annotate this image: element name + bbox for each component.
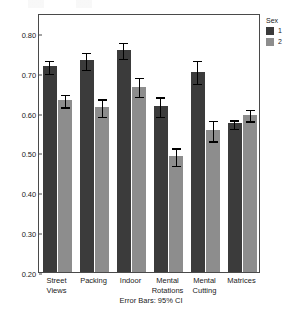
bar-group	[150, 15, 187, 272]
bar-slot	[169, 15, 183, 272]
error-bar-line	[65, 95, 66, 107]
x-axis-label-line: Cutting	[186, 286, 223, 296]
x-axis-label-line: Indoor	[112, 276, 149, 286]
x-axis-label: Matrices	[223, 276, 260, 286]
error-bar-cap-upper	[119, 43, 128, 44]
y-tick-label: 0.20	[22, 270, 39, 279]
bar-group	[187, 15, 224, 272]
x-axis-label-line: Street	[38, 276, 75, 286]
error-bar-cap-upper	[135, 78, 144, 79]
error-bar-line	[160, 98, 161, 118]
error-bar-line	[197, 62, 198, 85]
x-axis-label-line: Packing	[75, 276, 112, 286]
error-bar-cap-lower	[135, 97, 144, 98]
error-bar-cap-lower	[98, 117, 107, 118]
error-bar-line	[49, 62, 50, 75]
x-axis-label-line: Mental	[186, 276, 223, 286]
bar-group	[224, 15, 261, 272]
bar-series-1	[80, 60, 94, 272]
bar-series-1	[191, 72, 205, 272]
y-tick-label: 0.50	[22, 150, 39, 159]
plot-area: Mean 0.800.700.600.500.400.300.20	[38, 14, 260, 273]
bar-series-2	[169, 156, 183, 272]
bar-group	[76, 15, 113, 272]
error-bar-cap-upper	[209, 121, 218, 122]
x-axis-label-line: Mental	[149, 276, 186, 286]
legend-title: Sex	[266, 17, 282, 24]
y-tick-label: 0.70	[22, 70, 39, 79]
bar-group	[39, 15, 76, 272]
bars-layer	[39, 15, 259, 272]
bar-slot	[95, 15, 109, 272]
bar-slot	[154, 15, 168, 272]
y-tick-label: 0.60	[22, 110, 39, 119]
cropped-header-artifact	[0, 0, 302, 8]
x-axis-label-line: Views	[38, 286, 75, 296]
error-bar-cap-upper	[45, 61, 54, 62]
bar-slot	[243, 15, 257, 272]
error-bar-cap-upper	[61, 95, 70, 96]
legend-label: 1	[278, 27, 282, 35]
bar-series-2	[206, 130, 220, 272]
legend-item[interactable]: 1	[266, 27, 282, 35]
legend-swatch-icon	[266, 27, 274, 35]
bar-slot	[191, 15, 205, 272]
error-bar-cap-upper	[98, 99, 107, 100]
error-bar-cap-lower	[230, 129, 239, 130]
bar-chart: Mean 0.800.700.600.500.400.300.20 Street…	[0, 0, 302, 313]
bar-slot	[206, 15, 220, 272]
x-axis-label: MentalCutting	[186, 276, 223, 295]
bar-series-2	[95, 107, 109, 272]
bar-slot	[228, 15, 242, 272]
x-axis-label-line: Rotations	[149, 286, 186, 296]
x-axis-label: Indoor	[112, 276, 149, 286]
error-bar-cap-lower	[156, 117, 165, 118]
error-bar-cap-upper	[172, 148, 181, 149]
bar-series-2	[58, 100, 72, 272]
error-bar-cap-lower	[172, 166, 181, 167]
error-bar-line	[123, 44, 124, 60]
bar-series-1	[117, 50, 131, 272]
error-bar-line	[176, 149, 177, 167]
x-axis-label: MentalRotations	[149, 276, 186, 295]
x-axis-label: StreetViews	[38, 276, 75, 295]
error-bar-cap-lower	[119, 59, 128, 60]
x-axis-label-line: Matrices	[223, 276, 260, 286]
y-tick-label: 0.30	[22, 230, 39, 239]
error-bar-cap-upper	[230, 120, 239, 121]
bar-series-2	[243, 115, 257, 272]
legend-swatch-icon	[266, 38, 274, 46]
bar-slot	[80, 15, 94, 272]
error-bar-cap-lower	[246, 121, 255, 122]
bar-series-1	[43, 66, 57, 272]
bar-series-1	[228, 123, 242, 272]
bar-slot	[117, 15, 131, 272]
legend-item[interactable]: 2	[266, 38, 282, 46]
bar-series-2	[132, 87, 146, 272]
bar-slot	[58, 15, 72, 272]
bar-series-1	[154, 106, 168, 272]
error-bar-line	[86, 53, 87, 71]
error-bar-cap-lower	[61, 107, 70, 108]
error-bar-cap-lower	[193, 84, 202, 85]
error-bar-line	[102, 100, 103, 118]
y-tick-label: 0.40	[22, 190, 39, 199]
error-bar-cap-upper	[156, 97, 165, 98]
bar-slot	[132, 15, 146, 272]
error-bar-line	[213, 121, 214, 142]
legend: Sex 12	[266, 17, 282, 49]
bar-group	[113, 15, 150, 272]
error-bar-line	[250, 111, 251, 123]
error-bar-cap-lower	[82, 70, 91, 71]
error-bar-cap-upper	[82, 53, 91, 54]
x-axis-label: Packing	[75, 276, 112, 286]
error-bar-footnote: Error Bars: 95% CI	[0, 296, 302, 305]
y-tick-label: 0.80	[22, 30, 39, 39]
error-bar-cap-upper	[246, 110, 255, 111]
error-bar-cap-lower	[209, 141, 218, 142]
legend-label: 2	[278, 38, 282, 46]
error-bar-cap-lower	[45, 74, 54, 75]
error-bar-cap-upper	[193, 61, 202, 62]
error-bar-line	[139, 79, 140, 98]
bar-slot	[43, 15, 57, 272]
